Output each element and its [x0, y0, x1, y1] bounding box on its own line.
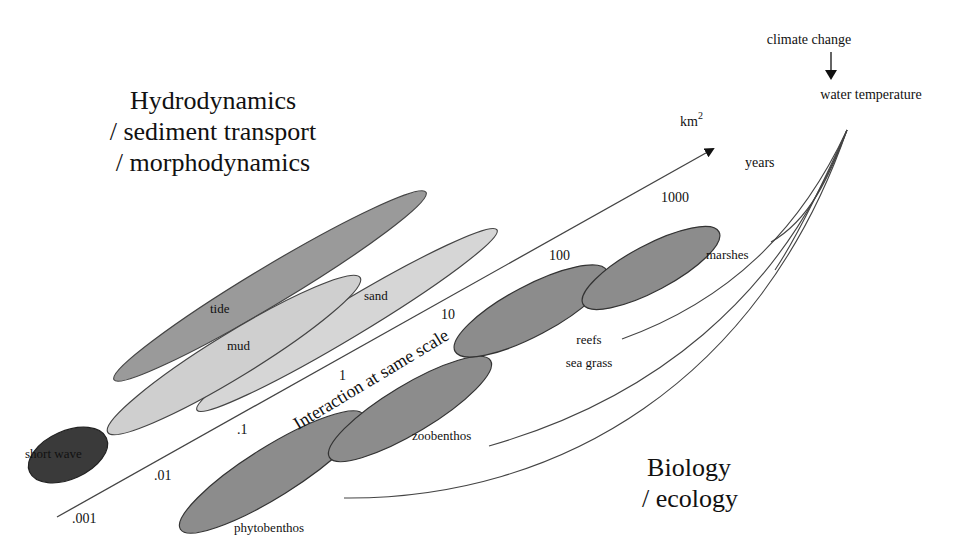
- sea-grass-label: sea grass: [566, 355, 613, 370]
- unit-time-label: years: [745, 155, 775, 170]
- scale-interaction-diagram: Hydrodynamics / sediment transport / mor…: [0, 0, 965, 556]
- hydro-title-line2: / sediment transport: [110, 117, 317, 146]
- zoobenthos-label: zoobenthos: [412, 428, 471, 443]
- tick-100: 100: [549, 248, 570, 263]
- phytobenthos-label: phytobenthos: [234, 520, 304, 535]
- tick-0.01: .01: [154, 468, 172, 483]
- hydro-title-line3: / morphodynamics: [116, 148, 310, 177]
- marshes-label: marshes: [706, 247, 749, 262]
- tick-10: 10: [441, 307, 455, 322]
- tick-1000: 1000: [661, 190, 689, 205]
- bio-title-line2: / ecology: [642, 484, 738, 513]
- tick-1: 1: [339, 368, 346, 383]
- tick-0.001: .001: [72, 511, 97, 526]
- reefs-label: reefs: [576, 332, 601, 347]
- short-wave-label: short wave: [25, 446, 82, 461]
- unit-area-label: km2: [680, 110, 703, 129]
- climate-change-label: climate change: [767, 32, 851, 47]
- climate-arrow-head: [825, 70, 837, 80]
- sand-label: sand: [364, 288, 388, 303]
- tide-label: tide: [210, 301, 230, 316]
- mud-label: mud: [227, 338, 251, 353]
- hydro-title-line1: Hydrodynamics: [130, 86, 296, 115]
- tick-0.1: .1: [237, 422, 248, 437]
- water-temperature-label: water temperature: [820, 87, 921, 102]
- bio-title-line1: Biology: [647, 453, 731, 482]
